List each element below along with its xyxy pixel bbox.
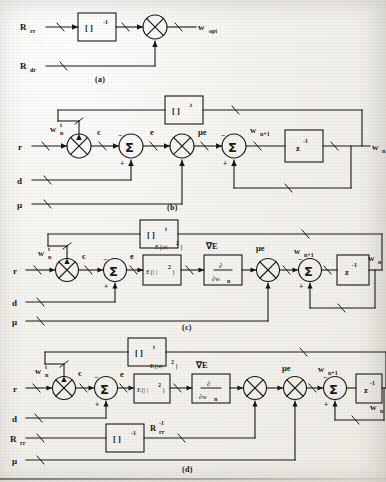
expectation-block-d-label: E{| | bbox=[137, 386, 148, 394]
node-label-Ee2-c-tail: } bbox=[180, 243, 183, 251]
arrow-d-into-summer1-c bbox=[112, 283, 117, 289]
inverse-block-a-exponent: -1 bbox=[103, 19, 108, 25]
node-label-wn1-d-sub: n+1 bbox=[328, 370, 338, 376]
transpose-block-c-exponent: t bbox=[165, 226, 167, 232]
arrow-into-summer1-c bbox=[98, 267, 104, 272]
arrow-d-into-summer1-d bbox=[103, 401, 108, 407]
caption-a: (a) bbox=[95, 75, 105, 84]
input-label-r-d: r bbox=[13, 384, 17, 394]
node-label-Rrrinv-d-sup: -1 bbox=[159, 420, 164, 426]
node-label-wn1-b-sub: n+1 bbox=[260, 131, 270, 137]
delay-block-c-label: z bbox=[345, 267, 349, 277]
caption-d: (d) bbox=[182, 465, 193, 474]
delay-block-d-rect bbox=[356, 374, 382, 403]
output-label-wopt: w bbox=[198, 22, 205, 32]
sign-minus-b2: − bbox=[221, 131, 225, 140]
arrow-into-expectation-d bbox=[129, 385, 135, 390]
input-label-r-b: r bbox=[18, 142, 22, 152]
summer-b1-glyph: Σ bbox=[125, 140, 134, 155]
arrow-into-mult2-d bbox=[238, 385, 244, 390]
sign-plus-c2: + bbox=[299, 282, 303, 291]
expectation-block-c-tail: } bbox=[172, 268, 175, 276]
transpose-block-b-rect bbox=[165, 96, 203, 124]
arrow-fb-into-summer2-d bbox=[332, 401, 337, 407]
node-label-Ee2-d-sup: 2 bbox=[171, 359, 174, 365]
arrow-fb-into-summer2-c bbox=[307, 283, 312, 289]
delay-block-d-exponent: -1 bbox=[370, 380, 375, 386]
panel-c: [ ] t E{| | 2 } ∂ ∂w n z -1 Σ Σ r d μ w … bbox=[0, 218, 386, 333]
input-label-rdr-sub: dr bbox=[30, 67, 36, 73]
node-label-wnt-d-sup: t bbox=[45, 364, 47, 370]
sign-minus-b1: − bbox=[118, 131, 122, 140]
panel-d: [ ] t E{| | 2 } ∂ ∂w n [ ] -1 z -1 Σ Σ r… bbox=[0, 336, 386, 476]
node-label-mue-d: μe bbox=[282, 363, 291, 373]
input-label-mu-d: μ bbox=[12, 456, 17, 466]
summer-c2-glyph: Σ bbox=[304, 264, 313, 279]
output-label-wn-b: w bbox=[372, 142, 379, 152]
node-label-Rrrinv-d-sub: rr bbox=[159, 429, 165, 435]
summer-b2-glyph: Σ bbox=[228, 140, 237, 155]
inverse-block-d-exponent: -1 bbox=[131, 430, 136, 436]
panel-a: [ ] -1 R rr R dr w opt (a) bbox=[0, 0, 386, 95]
arrow-mu-into-mult2 bbox=[179, 160, 185, 166]
transpose-block-b-exponent: t bbox=[190, 102, 192, 108]
inverse-block-d-rect bbox=[106, 424, 144, 452]
node-label-c-b: c bbox=[97, 127, 101, 137]
output-label-wn-c-sub: n bbox=[378, 259, 382, 265]
gradient-block-d-numerator: ∂ bbox=[207, 380, 210, 387]
node-label-wnt-c-sup: t bbox=[48, 246, 50, 252]
node-label-gradE-d: ∇E bbox=[195, 360, 208, 370]
node-label-Ee2-c-sup: 2 bbox=[176, 240, 179, 246]
input-label-mu-c: μ bbox=[12, 317, 17, 327]
expectation-block-c-label: E{| | bbox=[146, 268, 157, 276]
node-label-wn1-c-sub: n+1 bbox=[304, 252, 314, 258]
input-label-d-d: d bbox=[12, 414, 17, 424]
arrow-into-summer2-c bbox=[293, 267, 299, 272]
arrow-into-mult1-c bbox=[50, 267, 56, 272]
arrow-into-summer2 bbox=[216, 143, 222, 149]
arrow-into-summer1-d bbox=[89, 385, 95, 390]
input-label-d-c: d bbox=[12, 298, 17, 308]
arrow-into-summer1 bbox=[113, 143, 119, 149]
node-label-wn1-b: w bbox=[250, 125, 257, 135]
arrow-into-expectation-c bbox=[138, 267, 144, 272]
delay-block-d-label: z bbox=[364, 385, 368, 395]
output-label-wn-d: w bbox=[370, 402, 377, 412]
arrow-mu-into-mult3-d bbox=[292, 401, 297, 407]
input-label-d-b: d bbox=[17, 176, 22, 186]
arrow-into-mult1 bbox=[61, 143, 67, 149]
sign-plus-c1: + bbox=[104, 282, 108, 291]
node-label-wnt-c-sub: n bbox=[48, 254, 52, 260]
arrow-into-mult2-c bbox=[251, 267, 257, 272]
inverse-block-a-rect bbox=[78, 13, 116, 41]
gradient-block-d-denominator: ∂w bbox=[199, 393, 207, 400]
node-label-e-d: e bbox=[120, 369, 124, 379]
output-label-wn-b-sub: n bbox=[382, 148, 386, 154]
gradient-block-c-denominator-sub: n bbox=[227, 278, 231, 284]
sign-minus-c2: − bbox=[298, 255, 302, 264]
arrow-wnt-into-mult1 bbox=[76, 134, 82, 140]
arrow-into-mult1-d bbox=[47, 385, 53, 390]
gradient-block-c-denominator: ∂w bbox=[212, 275, 220, 282]
arrow-into-mult3-d bbox=[278, 385, 284, 390]
node-label-c-d: c bbox=[78, 368, 82, 378]
output-label-wn-c: w bbox=[368, 253, 375, 263]
arrow-wnt-into-mult1-d bbox=[61, 377, 66, 383]
gradient-block-d-denominator-sub: n bbox=[214, 396, 218, 402]
node-label-wnt-c: w bbox=[38, 248, 45, 258]
delay-block-b-label: z bbox=[296, 143, 300, 153]
node-label-e-c: e bbox=[130, 251, 134, 261]
node-label-wnt-d: w bbox=[35, 366, 42, 376]
summer-d1-glyph: Σ bbox=[100, 382, 109, 397]
node-label-mue-c: μe bbox=[256, 243, 265, 253]
node-label-wnt-b-sub: n bbox=[60, 130, 64, 136]
node-label-wnt-d-sub: n bbox=[45, 372, 49, 378]
caption-b: (b) bbox=[167, 203, 178, 212]
delay-block-b-exponent: -1 bbox=[303, 138, 308, 144]
arrow-into-gradient-d bbox=[187, 385, 193, 390]
node-label-Ee2-d: E{|e| bbox=[150, 362, 163, 370]
inverse-block-d-label: [ ] bbox=[113, 434, 121, 444]
sign-plus-b2: + bbox=[223, 159, 227, 168]
arrow-into-summer2-d bbox=[318, 385, 324, 390]
node-label-Rrrinv-d: R bbox=[150, 423, 157, 433]
